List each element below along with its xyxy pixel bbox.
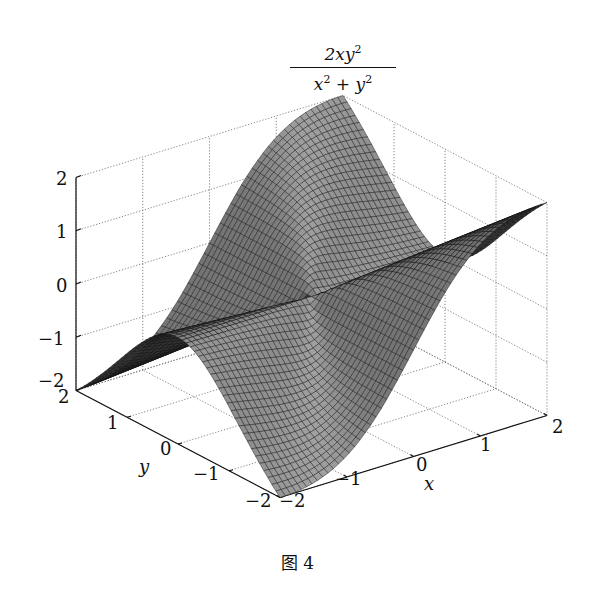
y-tick-label: 0	[160, 440, 171, 458]
x-tick-label: 2	[552, 418, 563, 436]
x-tick-label: 1	[480, 436, 491, 454]
x-tick-label: −1	[335, 470, 362, 488]
x-tick-label: −2	[279, 492, 306, 510]
title-denominator: x2 + y2	[288, 68, 398, 93]
z-tick-label: 2	[56, 170, 67, 188]
x-tick-label: 0	[416, 456, 427, 474]
z-tick-label: 0	[56, 277, 67, 295]
x-axis-label: x	[424, 475, 434, 493]
y-tick-label: 1	[107, 414, 118, 432]
z-tick-label: −1	[38, 330, 65, 348]
z-tick-label: 1	[56, 223, 67, 241]
title-numerator: 2xy2	[288, 44, 398, 67]
y-axis-label: y	[139, 458, 149, 476]
figure-caption: 图 4	[0, 549, 595, 574]
y-tick-label: 2	[58, 388, 69, 406]
y-tick-label: −1	[193, 465, 220, 483]
y-tick-label: −2	[245, 492, 272, 510]
chart-title: 2xy2 x2 + y2	[288, 44, 398, 92]
